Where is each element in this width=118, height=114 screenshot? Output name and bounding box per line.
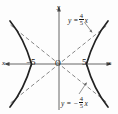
asymptote-negative-denominator: 5 — [79, 102, 83, 110]
leader-line-negative-asymptote — [79, 84, 86, 95]
asymptote-negative-fraction: 4 5 — [79, 96, 83, 110]
x-tick-label-neg5: −5 — [26, 58, 36, 67]
leader-arrow-negative-asymptote — [84, 82, 87, 85]
asymptote-negative-label: y = − 4 5 x — [61, 96, 88, 110]
origin-label: O — [55, 60, 61, 68]
asymptote-negative-variable: x — [84, 99, 87, 108]
x-axis-label-right: x — [108, 60, 111, 67]
asymptote-positive-variable: x — [85, 16, 88, 25]
hyperbola-figure: x x y −5 5 O y = 4 5 x y = − 4 5 x — [0, 0, 118, 114]
leader-arrow-positive-asymptote — [89, 30, 92, 33]
asymptote-positive-denominator: 5 — [79, 19, 83, 27]
x-tick-label-pos5: 5 — [82, 58, 87, 67]
asymptote-positive-fraction: 4 5 — [79, 13, 83, 27]
asymptote-positive-prefix: y = — [68, 16, 78, 25]
plot-canvas — [0, 0, 118, 114]
x-axis-label-left: x — [2, 60, 5, 67]
y-axis — [57, 6, 61, 110]
asymptote-negative-prefix: y = − — [61, 99, 78, 108]
y-axis-label: y — [57, 4, 60, 11]
asymptote-positive-label: y = 4 5 x — [68, 13, 88, 27]
